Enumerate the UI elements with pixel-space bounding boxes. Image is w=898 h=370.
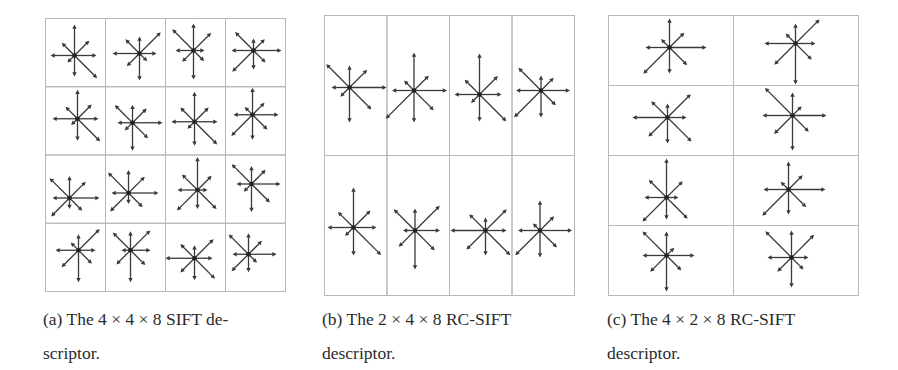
orientation-histogram-icon [328,188,382,256]
center-dot-icon [130,120,135,125]
arrow-ne-icon [78,106,91,119]
center-dot-icon [249,182,254,187]
arrowhead-icon [538,201,542,205]
arrowhead-icon [234,113,238,117]
arrowhead-icon [72,72,76,76]
arrow-se-icon [541,91,554,104]
arrow-ne-icon [195,109,208,122]
arrowhead-icon [664,287,668,291]
arrowhead-icon [789,283,793,287]
center-dot-icon [664,195,669,200]
arrow-se-icon [789,190,805,206]
arrowhead-icon [192,245,196,249]
arrowhead-icon [664,232,668,236]
arrowhead-icon [75,90,79,94]
center-dot-icon [246,252,251,257]
arrowhead-icon [246,233,250,237]
caption-line-1: (a) The 4 × 4 × 8 SIFT de- [43,302,228,336]
arrow-ne-icon [486,211,506,231]
arrow-ne-icon [354,212,370,228]
arrow-nw-icon [114,234,130,250]
center-dot-icon [191,48,196,53]
orientation-histogram-icon [762,162,825,216]
arrow-se-icon [668,118,691,141]
arrow-ne-icon [414,77,427,90]
center-dot-icon [790,113,795,118]
arrow-sw-icon [233,254,249,270]
arrowhead-icon [451,228,455,232]
arrow-se-icon [70,198,81,209]
grid-cell [387,156,450,296]
orientation-histogram-icon [56,229,100,282]
arrowhead-icon [497,92,501,96]
orientation-histogram-icon [451,209,511,255]
arrowhead-icon [483,251,487,255]
arrow-nw-icon [116,106,132,122]
orientation-histogram-icon [455,54,507,122]
arrow-ne-icon [133,110,146,123]
arrow-sw-icon [517,231,540,254]
arrowhead-icon [272,252,276,256]
arrowhead-icon [351,188,355,192]
arrowhead-icon [249,208,253,212]
arrow-se-icon [133,123,147,137]
arrowhead-icon [130,147,134,151]
arrowhead-icon [195,205,199,209]
arrow-se-icon [796,44,811,59]
arrow-nw-icon [63,44,74,55]
center-dot-icon [793,41,798,46]
arrowhead-icon [539,113,543,117]
orientation-histogram-icon [115,105,163,151]
arrowhead-icon [664,215,668,219]
orientation-histogram-icon [113,230,151,282]
arrow-nw-icon [339,213,353,227]
arrow-ne-icon [789,177,802,190]
arrow-se-icon [480,95,505,120]
arrowhead-icon [413,209,417,213]
arrowhead-icon [483,218,487,222]
arrowhead-icon [667,69,671,73]
arrow-ne-icon [198,177,211,190]
arrowhead-icon [403,228,407,232]
arrowhead-icon [347,118,351,122]
arrow-sw-icon [779,258,792,271]
arrowhead-icon [665,139,669,143]
grid-cell [512,16,575,156]
arrowhead-icon [702,45,706,49]
rc-sift-4x2-descriptor-grid [608,15,859,296]
grid-cell [226,223,286,291]
arrowhead-icon [130,105,134,109]
arrowhead-icon [274,113,278,117]
arrow-sw-icon [776,116,793,133]
arrowhead-icon [192,142,196,146]
orientation-histogram-icon [642,231,694,291]
arrowhead-icon [126,170,130,174]
grid-cell [609,16,734,86]
arrow-sw-icon [233,115,253,135]
arrow-sw-icon [128,54,139,65]
arrowhead-icon [276,182,280,186]
arrow-nw-icon [109,174,128,193]
orientation-histogram-icon [51,25,98,79]
arrowhead-icon [191,24,195,28]
center-dot-icon [195,188,200,193]
grid-cell [325,16,388,156]
arrowhead-icon [443,88,447,92]
arrowhead-icon [646,45,650,49]
arrowhead-icon [539,76,543,80]
orientation-histogram-icon [394,206,440,270]
arrow-sw-icon [387,91,414,118]
arrowhead-icon [213,120,217,124]
arrowhead-icon [566,88,570,92]
arrowhead-icon [152,51,156,55]
arrow-se-icon [79,250,91,262]
arrow-sw-icon [764,190,789,215]
arrow-ne-icon [131,232,149,250]
grid-cell [226,87,286,155]
center-dot-icon [664,253,669,258]
arrow-se-icon [670,48,686,64]
arrowhead-icon [158,121,162,125]
arrowhead-icon [192,276,196,280]
arrowhead-icon [53,196,57,200]
arrowhead-icon [113,51,117,55]
